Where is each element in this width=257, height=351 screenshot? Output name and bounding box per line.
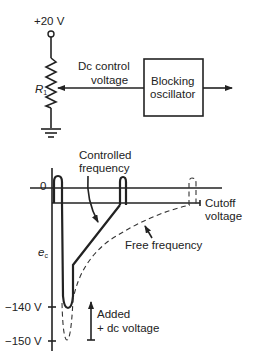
axis-label: ec bbox=[38, 246, 48, 259]
ground-icon bbox=[41, 129, 61, 137]
cutoff-voltage-label-2: voltage bbox=[205, 210, 242, 222]
free-frequency-pointer bbox=[145, 226, 152, 238]
blocking-oscillator-diagram: +20 V R1 Dc control voltage Blocking osc… bbox=[0, 0, 257, 351]
control-voltage-label-1: Dc control bbox=[78, 60, 130, 72]
control-voltage-label-2: voltage bbox=[91, 74, 128, 86]
supply-terminal-icon bbox=[48, 31, 54, 37]
controlled-frequency-label-1: Controlled bbox=[79, 149, 131, 161]
zero-label: 0 bbox=[40, 180, 46, 192]
tick-label-minus-140: −140 V bbox=[5, 301, 42, 313]
supply-voltage-label: +20 V bbox=[34, 15, 65, 27]
controlled-frequency-label-2: frequency bbox=[79, 162, 130, 174]
added-dc-label-2: + dc voltage bbox=[97, 322, 159, 334]
cutoff-voltage-label-1: Cutoff bbox=[205, 197, 236, 209]
controlled-waveform bbox=[54, 176, 120, 308]
controlled-frequency-pointer bbox=[88, 176, 98, 222]
box-label-1: Blocking bbox=[151, 75, 194, 87]
box-label-2: oscillator bbox=[150, 88, 196, 100]
resistor-label: R1 bbox=[35, 83, 47, 96]
added-dc-label-1: Added bbox=[97, 308, 130, 320]
circuit-section: +20 V R1 Dc control voltage Blocking osc… bbox=[34, 15, 232, 137]
tick-label-minus-150: −150 V bbox=[5, 335, 42, 347]
potentiometer-icon bbox=[46, 58, 56, 108]
waveform-section: 0 ec −140 V −150 V Controlled frequency … bbox=[5, 149, 242, 351]
free-frequency-label: Free frequency bbox=[125, 239, 203, 251]
